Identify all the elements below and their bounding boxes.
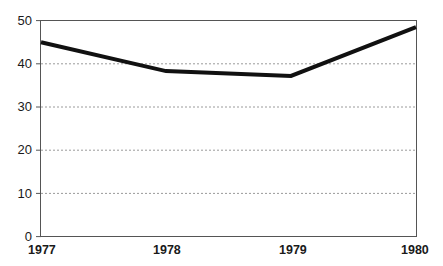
y-axis-label-10: 10 [8,187,32,200]
line-chart: 50 40 30 20 10 0 1977 1978 1979 1980 [0,0,443,266]
y-axis-label-30: 30 [8,100,32,113]
x-axis-label-1979: 1979 [279,244,307,257]
plot-frame [41,21,417,237]
y-axis-label-0: 0 [8,230,32,243]
y-axis-label-50: 50 [8,14,32,27]
y-axis-label-20: 20 [8,143,32,156]
chart-plot-area [0,0,443,266]
x-axis-label-1977: 1977 [28,244,56,257]
y-axis-label-40: 40 [8,57,32,70]
x-axis-label-1980: 1980 [401,244,429,257]
x-axis-label-1978: 1978 [153,244,181,257]
